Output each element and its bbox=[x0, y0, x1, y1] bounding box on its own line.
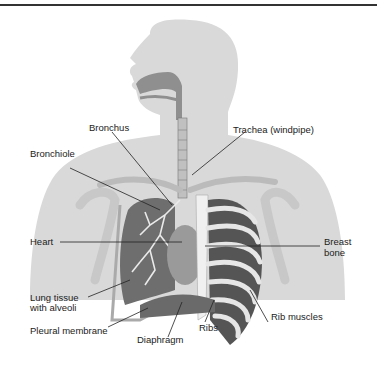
label-rib-muscles: Rib muscles bbox=[271, 311, 323, 322]
label-trachea: Trachea (windpipe) bbox=[233, 124, 314, 135]
label-breast-bone-line1: Breast bbox=[324, 236, 351, 247]
label-heart: Heart bbox=[30, 236, 53, 247]
label-pleural-membrane: Pleural membrane bbox=[30, 325, 108, 336]
trachea-shape bbox=[178, 118, 187, 198]
label-bronchus: Bronchus bbox=[89, 122, 129, 133]
label-lung-tissue-line2: with alveoli bbox=[30, 302, 76, 313]
label-bronchiole: Bronchiole bbox=[30, 148, 75, 159]
label-breast-bone-line2: bone bbox=[324, 247, 345, 258]
label-ribs: Ribs bbox=[199, 322, 218, 333]
label-diaphragm: Diaphragm bbox=[137, 334, 183, 345]
